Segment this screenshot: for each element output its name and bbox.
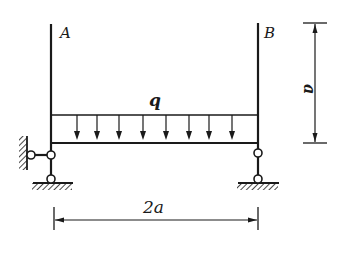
hinge-icon — [254, 149, 262, 157]
label-load-q: q — [149, 90, 161, 110]
label-height-dim: a — [300, 84, 319, 94]
left-support — [19, 136, 73, 190]
hinge-icon — [47, 175, 55, 183]
height-dimension — [303, 23, 327, 143]
label-a-point: A — [58, 24, 71, 42]
label-span-dim: 2a — [142, 197, 164, 217]
right-support — [237, 143, 279, 190]
distributed-load — [51, 115, 258, 140]
hinge-icon — [27, 151, 35, 159]
hinge-icon — [47, 151, 55, 159]
hinge-icon — [254, 175, 262, 183]
label-b-point: B — [263, 24, 275, 42]
load-arrows — [74, 115, 235, 140]
frame-diagram: A B q a 2a — [0, 0, 337, 256]
